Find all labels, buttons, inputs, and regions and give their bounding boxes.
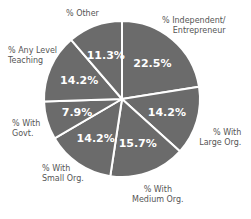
pie-slices bbox=[44, 21, 200, 177]
label-medium-org: % With Medium Org. bbox=[132, 185, 184, 205]
label-govt: % With Govt. bbox=[12, 119, 40, 139]
slice-value-label: 14.2% bbox=[60, 74, 98, 87]
label-large-org: % With Large Org. bbox=[199, 128, 241, 148]
slice-value-label: 15.7% bbox=[119, 137, 157, 150]
label-independent: % Independent/ Entrepreneur bbox=[162, 16, 226, 36]
slice-value-label: 14.2% bbox=[77, 132, 115, 145]
slice-value-label: 11.3% bbox=[87, 49, 125, 62]
slice-value-label: 7.9% bbox=[62, 106, 93, 119]
slice-value-label: 22.5% bbox=[133, 57, 171, 70]
label-other: % Other bbox=[66, 9, 99, 19]
label-small-org: % With Small Org. bbox=[42, 164, 84, 184]
slice-value-label: 14.2% bbox=[148, 106, 186, 119]
label-any-level-teaching: % Any Level Teaching bbox=[8, 46, 57, 66]
